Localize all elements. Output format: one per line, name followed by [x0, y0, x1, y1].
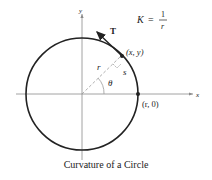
y-axis-label: y: [78, 7, 83, 15]
radius-line: [82, 55, 122, 94]
figure-caption: Curvature of a Circle: [0, 159, 212, 170]
angle-arc: [98, 78, 104, 94]
formula-eq: =: [148, 14, 154, 25]
formula-lhs: K: [136, 14, 145, 25]
x-axis-label: x: [195, 91, 200, 99]
point-xy-label: (x, y): [126, 47, 144, 57]
angle-label: θ: [108, 78, 113, 88]
curvature-formula: K = 1 r: [136, 10, 167, 31]
formula-denominator: r: [161, 22, 165, 31]
formula-numerator: 1: [161, 10, 165, 19]
tangent-label: T: [110, 26, 116, 36]
arc-label: s: [123, 67, 127, 77]
point-r0: [136, 92, 140, 96]
curvature-diagram: x y θ r s T (x, y) (r, 0) K = 1 r Curv: [0, 0, 212, 180]
intercept-label: (r, 0): [142, 99, 159, 109]
point-xy: [120, 54, 124, 58]
right-angle-marker: [113, 64, 121, 68]
radius-label: r: [97, 62, 101, 72]
